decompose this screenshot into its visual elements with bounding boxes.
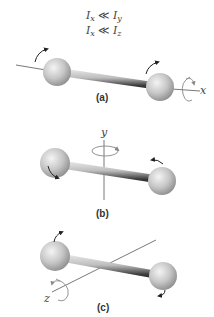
- circular-rotation-arrow-icon: [182, 77, 192, 101]
- circular-rotation-arrow-icon: [56, 279, 68, 301]
- atom-sphere-right: [148, 167, 176, 195]
- rotation-arrow-icon: [146, 62, 158, 74]
- axis-label-x: x: [200, 84, 207, 97]
- bond-rod: [58, 253, 163, 280]
- axis-label-y: y: [100, 126, 108, 139]
- panel-label-c: (c): [97, 302, 109, 313]
- atom-sphere-left: [40, 241, 70, 271]
- rotation-arrow-icon: [35, 49, 47, 62]
- atom-sphere-left: [40, 148, 70, 178]
- x-axis-line-right: [172, 89, 200, 91]
- circular-arrow-head-icon: [114, 147, 118, 150]
- equation-line-2: Ix≪Iz: [85, 24, 122, 38]
- panel-label-a: (a): [96, 92, 108, 103]
- diatomic-rotation-diagram: Ix≪Iy Ix≪Iz x (a) y: [0, 0, 214, 317]
- bond-rod: [60, 68, 160, 90]
- panel-c: z (c): [40, 232, 177, 313]
- atom-sphere-right: [146, 73, 174, 101]
- axis-label-z: z: [43, 292, 50, 305]
- atom-sphere-right: [149, 262, 177, 290]
- equations: Ix≪Iy Ix≪Iz: [85, 9, 122, 38]
- circular-arrow-head-icon: [52, 281, 60, 284]
- panel-label-b: (b): [96, 208, 109, 219]
- equation-line-1: Ix≪Iy: [85, 9, 122, 23]
- x-axis-line-left: [16, 65, 46, 70]
- rotation-arrow-icon: [54, 232, 62, 242]
- bond-rod: [58, 160, 162, 184]
- rotation-arrow-icon: [152, 160, 163, 164]
- panel-a: x (a): [16, 49, 207, 103]
- panel-b: y (b): [40, 126, 176, 219]
- atom-sphere-left: [43, 58, 71, 86]
- rotation-arrow-icon: [159, 290, 165, 296]
